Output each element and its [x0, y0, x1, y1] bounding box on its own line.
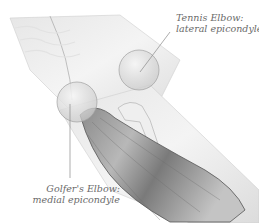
tennis-elbow-subtitle: lateral epicondyle [176, 23, 259, 34]
tennis-elbow-label: Tennis Elbow: lateral epicondyle [176, 12, 259, 34]
golfer-elbow-label: Golfer's Elbow: medial epicondyle [22, 183, 120, 205]
lateral-epicondyle-marker [119, 50, 159, 90]
golfer-elbow-title: Golfer's Elbow: [22, 183, 120, 194]
medial-epicondyle-marker [57, 82, 97, 122]
tennis-elbow-title: Tennis Elbow: [176, 12, 259, 23]
golfer-elbow-subtitle: medial epicondyle [22, 194, 120, 205]
